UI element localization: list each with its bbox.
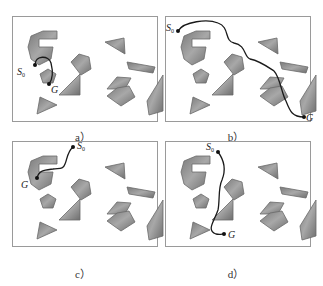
goal-label: G xyxy=(306,112,313,123)
start-point xyxy=(216,150,220,154)
goal-point xyxy=(35,176,39,180)
environment-map: S0G xyxy=(166,142,312,248)
obstacle xyxy=(190,222,210,239)
obstacle xyxy=(105,38,125,54)
obstacle xyxy=(300,200,316,240)
obstacle xyxy=(147,200,163,240)
obstacle xyxy=(37,222,57,239)
panel-b: S0G xyxy=(165,16,311,122)
obstacle xyxy=(258,163,278,179)
goal-label: G xyxy=(228,229,235,240)
start-label: S0 xyxy=(17,66,25,78)
panel-c: S0G xyxy=(12,141,158,247)
obstacle xyxy=(40,194,56,208)
goal-label: G xyxy=(21,179,28,190)
obstacle xyxy=(224,54,244,75)
obstacle xyxy=(193,194,209,208)
planned-path xyxy=(211,152,224,234)
start-point xyxy=(33,63,37,67)
obstacle xyxy=(59,74,80,95)
panel-caption-c: c） xyxy=(68,265,98,281)
start-label: S0 xyxy=(77,140,85,152)
obstacle xyxy=(147,75,163,115)
obstacle xyxy=(212,74,233,95)
goal-point xyxy=(222,232,226,236)
panel-a: S0G xyxy=(12,16,158,122)
obstacle xyxy=(258,38,278,54)
obstacle xyxy=(127,187,155,198)
obstacle xyxy=(59,199,80,220)
panel-d: S0G xyxy=(165,141,311,247)
obstacle xyxy=(193,69,209,83)
obstacle xyxy=(181,156,210,190)
obstacle xyxy=(224,179,244,200)
obstacle xyxy=(300,75,316,115)
obstacle xyxy=(40,69,56,83)
obstacle xyxy=(71,179,91,200)
obstacle xyxy=(71,54,91,75)
obstacle xyxy=(190,97,210,114)
start-point xyxy=(71,145,75,149)
environment-map: S0G xyxy=(13,142,159,248)
obstacle xyxy=(127,62,155,73)
start-point xyxy=(176,29,180,33)
start-label: S0 xyxy=(166,22,174,34)
obstacle xyxy=(280,62,308,73)
environment-map: S0G xyxy=(13,17,159,123)
panel-caption-d: d） xyxy=(221,265,251,281)
environment-map: S0G xyxy=(166,17,312,123)
obstacle xyxy=(28,156,57,190)
obstacle xyxy=(280,187,308,198)
obstacle xyxy=(28,31,57,65)
goal-label: G xyxy=(51,84,58,95)
obstacle xyxy=(181,31,210,65)
obstacle xyxy=(37,97,57,114)
obstacle xyxy=(105,163,125,179)
start-label: S0 xyxy=(206,141,214,153)
